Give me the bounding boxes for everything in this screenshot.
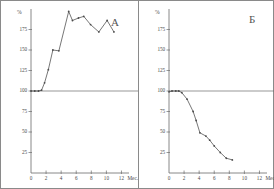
x-unit-label-a: Мес. — [127, 176, 138, 181]
y-tick-50-b: 50 — [149, 129, 165, 134]
y-tick-100-a: 100 — [11, 88, 27, 93]
x-unit-label-b: Мес. — [265, 176, 274, 181]
y-tick-125-b: 125 — [149, 68, 165, 73]
y-unit-label-b: % — [155, 10, 160, 16]
x-tick-2-a: 2 — [41, 176, 51, 181]
y-tick-150-b: 150 — [149, 47, 165, 52]
y-tick-175-a: 175 — [11, 27, 27, 32]
x-tick-4-b: 4 — [194, 176, 204, 181]
x-tick-0-a: 0 — [26, 176, 36, 181]
panel-title-a: А — [111, 17, 119, 28]
x-tick-8-b: 8 — [224, 176, 234, 181]
x-tick-10-a: 10 — [101, 176, 111, 181]
y-tick-75-b: 75 — [149, 109, 165, 114]
x-tick-8-a: 8 — [86, 176, 96, 181]
x-tick-2-b: 2 — [179, 176, 189, 181]
y-tick-25-a: 25 — [11, 150, 27, 155]
chart-panel-b: % 175 150 125 100 75 50 25 0 2 4 6 8 10 … — [138, 1, 274, 189]
y-tick-25-b: 25 — [149, 150, 165, 155]
chart-panel-a: % 175 150 125 100 75 50 25 0 2 4 6 8 10 … — [1, 1, 138, 189]
x-tick-6-a: 6 — [71, 176, 81, 181]
y-tick-75-a: 75 — [11, 109, 27, 114]
x-tick-10-b: 10 — [239, 176, 249, 181]
x-tick-6-b: 6 — [209, 176, 219, 181]
x-tick-12-a: 12 — [116, 176, 126, 181]
figure-frame: % 175 150 125 100 75 50 25 0 2 4 6 8 10 … — [0, 0, 274, 189]
y-tick-100-b: 100 — [149, 88, 165, 93]
x-tick-0-b: 0 — [164, 176, 174, 181]
y-tick-50-a: 50 — [11, 129, 27, 134]
y-tick-150-a: 150 — [11, 47, 27, 52]
y-tick-125-a: 125 — [11, 68, 27, 73]
y-tick-175-b: 175 — [149, 27, 165, 32]
panel-title-b: Б — [249, 14, 255, 25]
x-tick-12-b: 12 — [254, 176, 264, 181]
x-tick-4-a: 4 — [56, 176, 66, 181]
y-unit-label-a: % — [17, 10, 22, 16]
